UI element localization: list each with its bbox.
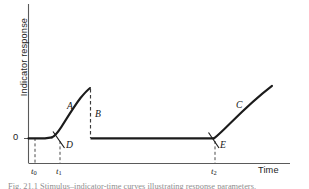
- figure-caption: Fig. 21.1 Stimulus–indicator-time curves…: [8, 182, 308, 189]
- plot-canvas: [0, 0, 309, 189]
- y-axis-tick-zero: 0: [13, 131, 18, 142]
- x-tick-t1-sub: 1: [59, 169, 62, 176]
- curve-a: [52, 88, 90, 137]
- curve-label-d: D: [66, 139, 73, 150]
- curve-a-baseline: [29, 137, 53, 138]
- x-tick-t0-sub: 0: [34, 169, 37, 176]
- x-axis-label: Time: [258, 165, 279, 175]
- curve-label-e: E: [220, 139, 226, 150]
- tangent-stub-d: [53, 132, 65, 149]
- curve-label-b: B: [95, 108, 101, 119]
- curve-c: [214, 86, 272, 139]
- x-tick-label-t1: t1: [56, 166, 62, 176]
- curve-label-c: C: [236, 99, 242, 110]
- curve-label-a: A: [67, 100, 73, 111]
- figure-container: Indicator response 0 Time t0 t1 t2 A B C…: [0, 0, 309, 189]
- x-tick-t2-sub: 2: [214, 169, 217, 176]
- x-tick-label-t2: t2: [211, 166, 217, 176]
- y-axis-label: Indicator response: [19, 0, 29, 127]
- x-tick-label-t0: t0: [31, 166, 37, 176]
